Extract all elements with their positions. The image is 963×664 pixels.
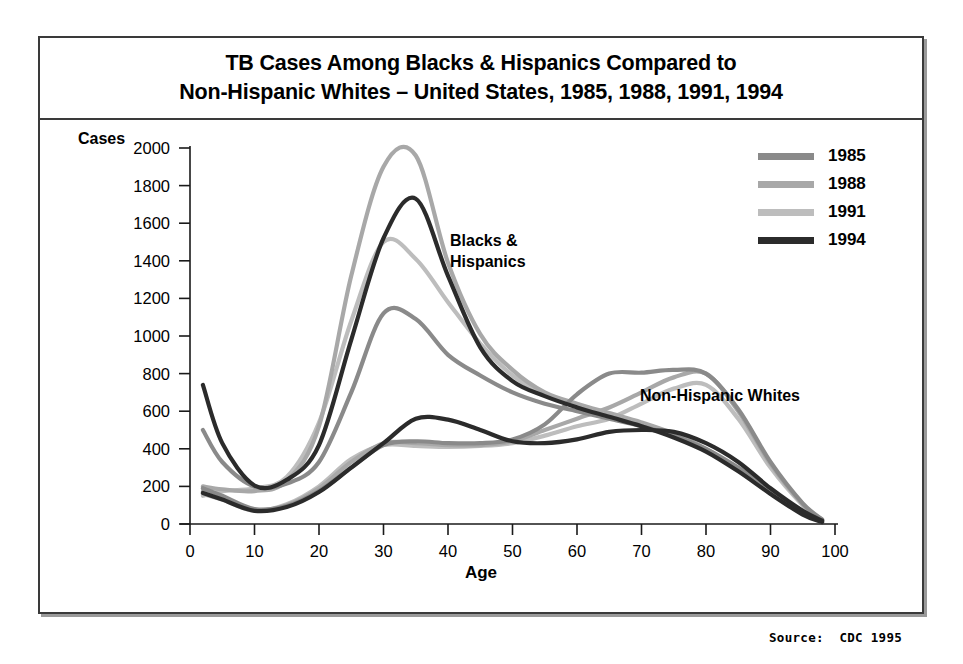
legend-item: 1994 [758,226,866,254]
y-tick-group: 0200400600800100012001400160018002000 [133,139,190,533]
legend-label: 1988 [828,174,866,194]
series-line [203,308,822,521]
legend-swatch [758,181,814,188]
legend-label: 1994 [828,230,866,250]
y-tick-label: 2000 [133,139,170,157]
x-tick-label: 80 [697,542,715,560]
x-tick-label: 0 [185,542,194,560]
y-tick-label: 0 [161,515,170,533]
x-tick-label: 100 [821,542,849,560]
x-tick-group: 0102030405060708090100 [185,524,848,560]
chart-panel: TB Cases Among Blacks & Hispanics Compar… [38,36,924,614]
legend-label: 1985 [828,146,866,166]
legend-item: 1991 [758,198,866,226]
screenshot-root: TB Cases Among Blacks & Hispanics Compar… [0,0,963,664]
annotation-bh-line1: Blacks & [450,230,526,251]
y-tick-label: 1600 [133,214,170,232]
x-tick-label: 50 [503,542,521,560]
y-tick-label: 1800 [133,177,170,195]
source-note: Source: CDC 1995 [769,630,902,645]
x-tick-label: 30 [374,542,392,560]
y-tick-label: 600 [142,402,170,420]
y-tick-label: 200 [142,477,170,495]
annotation-non-hispanic-whites: Non-Hispanic Whites [640,385,800,406]
x-tick-label: 70 [632,542,650,560]
legend-item: 1988 [758,170,866,198]
y-tick-label: 1400 [133,252,170,270]
series-group [203,147,822,522]
title-line-2: Non-Hispanic Whites – United States, 198… [179,78,783,107]
x-tick-label: 90 [761,542,779,560]
x-tick-label: 20 [310,542,328,560]
legend-swatch [758,237,814,244]
annotation-blacks-hispanics: Blacks & Hispanics [450,230,526,272]
x-tick-label: 10 [245,542,263,560]
x-tick-label: 60 [568,542,586,560]
chart-area: Cases Age 020040060080010001200140016001… [40,120,922,614]
legend-swatch [758,153,814,160]
legend-item: 1985 [758,142,866,170]
x-tick-label: 40 [439,542,457,560]
legend-label: 1991 [828,202,866,222]
y-tick-label: 1000 [133,327,170,345]
y-tick-label: 800 [142,365,170,383]
legend: 1985198819911994 [758,142,866,254]
legend-swatch [758,209,814,216]
title-line-1: TB Cases Among Blacks & Hispanics Compar… [225,49,736,78]
y-tick-label: 400 [142,440,170,458]
annotation-bh-line2: Hispanics [450,251,526,272]
y-tick-label: 1200 [133,289,170,307]
title-block: TB Cases Among Blacks & Hispanics Compar… [40,38,922,120]
